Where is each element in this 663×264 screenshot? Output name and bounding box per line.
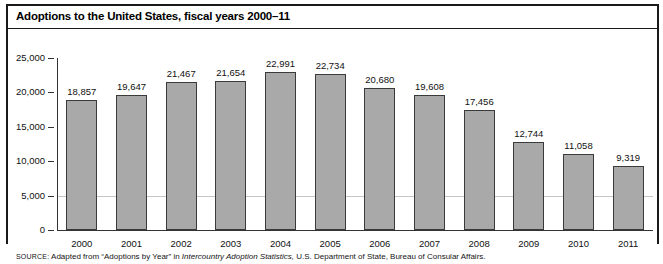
bar (364, 88, 395, 230)
y-axis-tick-label: 25,000 (16, 52, 45, 63)
chart-title: Adoptions to the United States, fiscal y… (16, 10, 290, 22)
x-axis-tick-label: 2010 (568, 238, 589, 249)
y-axis-tick-mark (48, 58, 54, 59)
y-axis-tick-label: 15,000 (16, 121, 45, 132)
bar-group: 17,4562008 (464, 58, 495, 230)
bar-group: 21,6542003 (215, 58, 246, 230)
bar-group: 19,6082007 (414, 58, 445, 230)
bar-value-label: 22,734 (316, 60, 345, 71)
source-text-part-1: Adapted from “Adoptions by Year” in (49, 252, 182, 261)
bar-value-label: 20,680 (365, 74, 394, 85)
x-axis-tick-label: 2002 (171, 238, 192, 249)
bar-group: 20,6802006 (364, 58, 395, 230)
bar (464, 110, 495, 230)
bar (215, 81, 246, 230)
source-publication-title: Intercountry Adoption Statistics, (182, 252, 294, 261)
x-axis-tick-label: 2008 (469, 238, 490, 249)
bar (513, 142, 544, 230)
y-axis-tick-label: 5,000 (21, 190, 45, 201)
y-axis-line (57, 58, 58, 230)
bar (265, 72, 296, 230)
figure-left-rule (6, 4, 8, 244)
bar-group: 21,4672002 (166, 58, 197, 230)
title-divider (6, 28, 659, 29)
y-axis-tick-mark (48, 92, 54, 93)
y-axis-tick-mark (48, 161, 54, 162)
bar-value-label: 9,319 (616, 152, 640, 163)
x-axis-line (57, 230, 653, 231)
bar (66, 100, 97, 230)
y-axis-tick-mark (48, 127, 54, 128)
y-axis-tick-mark (48, 196, 54, 197)
bar-value-label: 11,058 (564, 140, 592, 151)
x-axis-tick-label: 2005 (320, 238, 341, 249)
figure-right-rule (657, 4, 659, 244)
bar (414, 95, 445, 230)
bar-value-label: 12,744 (514, 128, 543, 139)
x-axis-tick-label: 2011 (618, 238, 638, 249)
x-axis-tick-label: 2007 (419, 238, 440, 249)
bar-group: 22,7342005 (315, 58, 346, 230)
bar-value-label: 19,608 (415, 81, 444, 92)
bar (563, 154, 594, 230)
y-axis-tick-label: 0 (40, 224, 45, 235)
source-note: SOURCE: Adapted from “Adoptions by Year”… (16, 252, 663, 261)
x-axis-tick-label: 2003 (220, 238, 241, 249)
bar-group: 12,7442009 (513, 58, 544, 230)
bar-group: 19,6472001 (116, 58, 147, 230)
bar (613, 166, 644, 230)
figure-top-rule (6, 4, 659, 6)
figure-container: Adoptions to the United States, fiscal y… (0, 0, 663, 264)
y-axis-tick-label: 10,000 (16, 155, 45, 166)
bar-group: 18,8572000 (66, 58, 97, 230)
bar-value-label: 21,654 (216, 67, 245, 78)
y-axis-tick-mark (48, 230, 54, 231)
bar-value-label: 19,647 (117, 81, 146, 92)
bar-group: 11,0582010 (563, 58, 594, 230)
source-text-part-2: U.S. Department of State, Bureau of Cons… (294, 252, 486, 261)
bar-value-label: 22,991 (266, 58, 295, 69)
x-axis-tick-label: 2001 (121, 238, 142, 249)
bar-value-label: 17,456 (465, 96, 494, 107)
x-axis-tick-label: 2000 (71, 238, 92, 249)
bar (166, 82, 197, 230)
plot-area: 05,00010,00015,00020,00025,000 18,857200… (57, 58, 653, 230)
bar-value-label: 18,857 (67, 86, 96, 97)
bar-value-label: 21,467 (167, 68, 196, 79)
bar (116, 95, 147, 230)
x-axis-tick-label: 2009 (518, 238, 539, 249)
bar-group: 9,3192011 (613, 58, 644, 230)
y-axis-tick-label: 20,000 (16, 86, 45, 97)
x-axis-tick-label: 2006 (369, 238, 390, 249)
bar (315, 74, 346, 230)
x-axis-tick-label: 2004 (270, 238, 291, 249)
bar-group: 22,9912004 (265, 58, 296, 230)
source-label: SOURCE: (16, 253, 49, 260)
